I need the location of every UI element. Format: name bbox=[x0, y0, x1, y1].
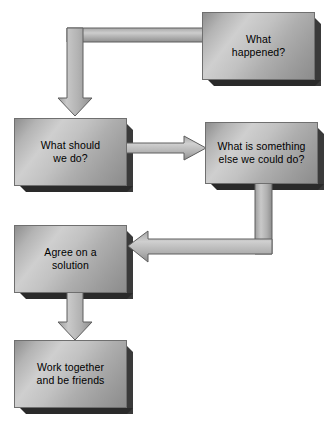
node-label-what-is-something-else: What is something else we could do? bbox=[211, 140, 311, 166]
connector-happened-to-should bbox=[60, 26, 220, 126]
box-shadow-right-what-happened bbox=[315, 18, 321, 86]
box-shadow-right-work-together bbox=[127, 346, 133, 414]
connector-agree-to-work-together bbox=[60, 292, 106, 344]
node-label-agree-on-a-solution: Agree on a solution bbox=[38, 246, 102, 272]
box-shadow-right-what-is-something-else bbox=[318, 128, 324, 190]
box-shadow-bottom-what-should-we-do bbox=[20, 186, 133, 192]
connector-something-else-to-agree bbox=[126, 182, 286, 287]
node-label-what-should-we-do: What should we do? bbox=[35, 139, 106, 165]
connector-should-to-something-else bbox=[126, 138, 212, 166]
box-shadow-bottom-what-happened bbox=[208, 80, 321, 86]
node-what-happened[interactable]: What happened? bbox=[202, 12, 315, 80]
box-shadow-bottom-work-together bbox=[20, 408, 133, 414]
node-agree-on-a-solution[interactable]: Agree on a solution bbox=[14, 225, 127, 293]
node-what-should-we-do[interactable]: What should we do? bbox=[14, 118, 127, 186]
node-work-together[interactable]: Work together and be friends bbox=[14, 340, 127, 408]
flowchart-canvas: What happened? What should we do? What i… bbox=[0, 0, 331, 425]
node-label-work-together: Work together and be friends bbox=[31, 361, 111, 387]
node-label-what-happened: What happened? bbox=[226, 33, 291, 59]
node-what-is-something-else[interactable]: What is something else we could do? bbox=[205, 122, 318, 184]
